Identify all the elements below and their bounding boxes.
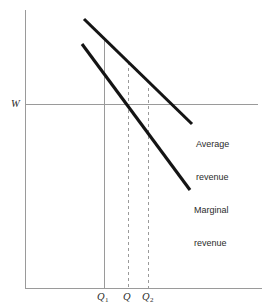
q1-tick-subscript: 1	[105, 296, 109, 304]
revenue-curves-figure: W Average revenue Marginal revenue Q1 Q …	[0, 0, 274, 307]
wage-axis-label: W	[11, 98, 20, 109]
marginal-revenue-label: Marginal revenue	[194, 183, 229, 271]
q1-tick-letter: Q	[97, 291, 105, 302]
marginal-revenue-curve	[82, 44, 190, 190]
q2-tick-label: Q2	[142, 291, 153, 304]
marginal-revenue-label-line1: Marginal	[194, 205, 229, 216]
average-revenue-label-line1: Average	[196, 139, 229, 150]
q-tick-label: Q	[123, 291, 131, 304]
average-revenue-label-line2: revenue	[196, 172, 229, 183]
q2-tick-letter: Q	[142, 291, 150, 302]
q2-tick-subscript: 2	[150, 296, 154, 304]
q1-tick-label: Q1	[97, 291, 108, 304]
average-revenue-curve	[84, 19, 192, 124]
q-tick-letter: Q	[123, 291, 131, 302]
marginal-revenue-label-line2: revenue	[194, 238, 229, 249]
chart-canvas	[0, 0, 274, 307]
